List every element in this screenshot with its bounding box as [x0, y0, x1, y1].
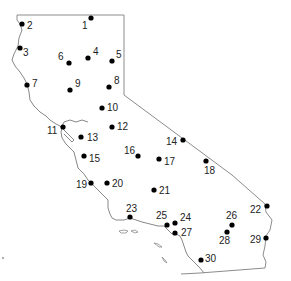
- site-label: 6: [58, 51, 64, 62]
- site-marker: [60, 124, 65, 129]
- site-marker: [109, 124, 114, 129]
- site-26: 26: [226, 210, 238, 228]
- site-8: 8: [106, 75, 120, 90]
- site-label: 25: [156, 210, 168, 221]
- site-label: 24: [180, 212, 192, 223]
- site-7: 7: [24, 78, 38, 89]
- site-marker: [19, 21, 24, 26]
- site-marker: [81, 153, 86, 158]
- site-19: 19: [76, 179, 94, 190]
- site-6: 6: [58, 51, 72, 66]
- site-marker: [224, 229, 229, 234]
- site-label: 14: [166, 136, 178, 147]
- site-23: 23: [126, 203, 138, 220]
- site-label: 5: [116, 49, 122, 60]
- channel-island-santa-rosa: [131, 230, 138, 233]
- site-label: 12: [117, 121, 129, 132]
- site-marker: [229, 222, 234, 227]
- site-marker: [67, 87, 72, 92]
- site-marker: [135, 153, 140, 158]
- site-label: 28: [219, 235, 231, 246]
- site-marker: [88, 180, 93, 185]
- site-3: 3: [17, 45, 29, 58]
- site-label: 21: [159, 185, 171, 196]
- site-11: 11: [47, 124, 66, 136]
- site-label: 10: [107, 102, 119, 113]
- site-5: 5: [109, 49, 122, 64]
- site-marker: [106, 84, 111, 89]
- site-label: 30: [205, 253, 217, 264]
- site-marker: [156, 156, 161, 161]
- site-marker: [85, 55, 90, 60]
- site-marker: [127, 214, 132, 219]
- site-25: 25: [156, 210, 170, 228]
- site-marker: [164, 222, 169, 227]
- channel-island-san-clemente: [162, 257, 167, 263]
- site-marker: [78, 134, 83, 139]
- site-29: 29: [250, 234, 269, 245]
- site-label: 16: [124, 145, 136, 156]
- small-island: [2, 257, 4, 259]
- site-label: 20: [112, 178, 124, 189]
- site-12: 12: [109, 121, 128, 132]
- channel-island-santa-cruz: [119, 230, 128, 233]
- site-28: 28: [219, 229, 231, 246]
- california-map: 1234567891011121314151617181920212223242…: [0, 0, 291, 281]
- site-27: 27: [172, 227, 192, 238]
- site-label: 22: [250, 204, 262, 215]
- site-label: 17: [164, 156, 176, 167]
- site-label: 9: [75, 78, 81, 89]
- site-label: 26: [226, 210, 238, 221]
- san-francisco-bay: [62, 120, 88, 142]
- site-label: 23: [126, 203, 138, 214]
- site-label: 3: [23, 47, 29, 58]
- site-marker: [263, 235, 268, 240]
- site-30: 30: [198, 253, 216, 264]
- site-label: 1: [82, 20, 88, 31]
- site-16: 16: [124, 145, 141, 159]
- site-label: 15: [89, 153, 101, 164]
- site-marker: [17, 45, 22, 50]
- site-marker: [66, 60, 71, 65]
- site-label: 19: [76, 179, 88, 190]
- site-21: 21: [151, 185, 170, 196]
- site-label: 27: [181, 227, 193, 238]
- site-4: 4: [85, 46, 99, 61]
- site-label: 7: [32, 78, 38, 89]
- site-label: 29: [250, 234, 262, 245]
- site-9: 9: [67, 78, 81, 93]
- state-border: [17, 15, 272, 274]
- site-14: 14: [166, 136, 186, 147]
- site-marker: [198, 257, 203, 262]
- site-20: 20: [104, 178, 123, 189]
- site-label: 8: [114, 75, 120, 86]
- site-marker: [104, 180, 109, 185]
- site-label: 2: [27, 20, 33, 31]
- site-marker: [172, 220, 177, 225]
- site-13: 13: [78, 132, 98, 143]
- site-marker: [24, 82, 29, 87]
- site-label: 18: [204, 165, 216, 176]
- site-24: 24: [172, 212, 191, 226]
- site-marker: [109, 58, 114, 63]
- site-marker: [88, 15, 93, 20]
- site-label: 4: [93, 46, 99, 57]
- site-marker: [180, 137, 185, 142]
- site-markers: 1234567891011121314151617181920212223242…: [17, 15, 269, 264]
- site-marker: [264, 203, 269, 208]
- site-marker: [172, 230, 177, 235]
- site-17: 17: [156, 156, 175, 167]
- site-marker: [151, 187, 156, 192]
- site-label: 13: [87, 132, 99, 143]
- site-1: 1: [82, 15, 94, 31]
- channel-island-catalina: [154, 243, 162, 247]
- site-label: 11: [47, 125, 58, 136]
- site-marker: [203, 158, 208, 163]
- site-15: 15: [81, 153, 100, 164]
- site-10: 10: [99, 102, 118, 113]
- site-marker: [99, 105, 104, 110]
